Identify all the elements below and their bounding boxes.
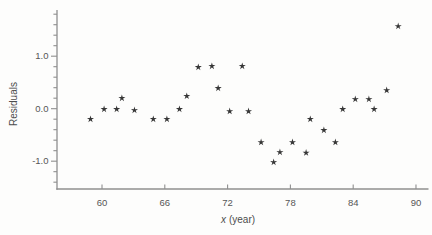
data-point [320, 127, 327, 134]
x-tick-label: 60 [97, 197, 108, 208]
data-point [245, 108, 252, 115]
data-point [258, 139, 265, 146]
data-point [113, 106, 120, 113]
data-point [307, 115, 314, 122]
data-point [195, 64, 202, 71]
x-tick-label: 84 [348, 197, 359, 208]
data-point [131, 107, 138, 114]
data-point [303, 149, 310, 156]
data-point [352, 96, 359, 103]
y-tick-label: 0.0 [35, 103, 48, 114]
data-point [208, 62, 215, 69]
data-point [339, 106, 346, 113]
data-point [150, 115, 157, 122]
data-point [395, 23, 402, 30]
data-point [332, 139, 339, 146]
data-point [289, 139, 296, 146]
data-point [176, 106, 183, 113]
x-axis-title-var: x [220, 214, 227, 225]
x-tick-label: 90 [411, 197, 422, 208]
data-point [87, 115, 94, 122]
residual-plot-figure: -1.00.01.0606672788490 Residuals x(year) [0, 0, 432, 235]
axes-group: -1.00.01.0606672788490 [32, 10, 428, 208]
plot-canvas: -1.00.01.0606672788490 Residuals x(year) [0, 0, 432, 235]
data-point [383, 87, 390, 94]
y-tick-label: -1.0 [32, 155, 48, 166]
data-point [226, 108, 233, 115]
data-point [118, 94, 125, 101]
data-point [101, 106, 108, 113]
data-point [270, 159, 277, 166]
x-tick-label: 66 [160, 197, 171, 208]
data-point [276, 149, 283, 156]
data-point [365, 96, 372, 103]
x-axis-title-unit: (year) [229, 214, 255, 225]
x-tick-label: 72 [222, 197, 233, 208]
data-point [239, 62, 246, 69]
y-axis-title: Residuals [8, 82, 19, 126]
x-tick-label: 78 [285, 197, 296, 208]
y-tick-label: 1.0 [35, 50, 48, 61]
data-point [371, 106, 378, 113]
x-axis-title: x(year) [220, 214, 255, 225]
data-points-group [87, 23, 402, 166]
data-point [215, 85, 222, 92]
data-point [183, 92, 190, 99]
data-point [163, 115, 170, 122]
